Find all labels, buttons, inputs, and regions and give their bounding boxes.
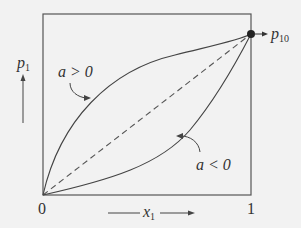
endpoint-dot [247,30,255,38]
pointer-arrowhead-upper [84,95,91,101]
x-tick-0: 0 [38,201,46,217]
pointer-arrow-upper [70,83,86,98]
pointer-arrow-lower [181,136,200,152]
y-axis-arrowhead [21,74,26,81]
x-axis-arrowhead [188,211,195,216]
x-axis-label: x1 [143,204,155,222]
curve-upper-label: a > 0 [58,64,93,80]
diagram-canvas [0,0,301,228]
endpoint-label: p10 [271,26,289,44]
pointer-arrowhead-lower [176,133,183,139]
curve-lower-label: a < 0 [196,157,231,173]
endpoint-arrowhead [262,32,268,37]
y-axis-label: p1 [17,55,30,73]
x-tick-1: 1 [247,201,255,217]
